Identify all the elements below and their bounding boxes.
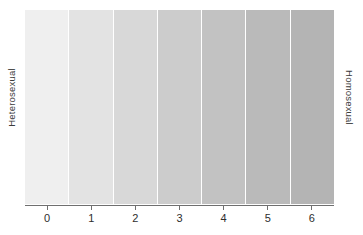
left-axis-annotation-text: Heterosexual: [6, 68, 17, 126]
scale-band-strip: [25, 10, 334, 204]
x-axis-tick-labels: 0123456: [25, 210, 334, 226]
right-axis-annotation-text: Homosexual: [344, 70, 355, 125]
scale-band: [69, 10, 113, 204]
x-axis-tick-label: 1: [69, 210, 113, 226]
scale-band: [202, 10, 246, 204]
kinsey-scale-figure: Heterosexual Homosexual 0123456: [0, 0, 363, 235]
scale-band: [246, 10, 290, 204]
x-axis-tick-label: 6: [290, 210, 334, 226]
scale-band: [25, 10, 69, 204]
x-axis-tick-label: 5: [246, 210, 290, 226]
x-axis-tick-label: 0: [25, 210, 69, 226]
right-axis-annotation: Homosexual: [336, 0, 362, 195]
scale-band: [114, 10, 158, 204]
x-axis-tick-label: 2: [113, 210, 157, 226]
scale-band: [291, 10, 334, 204]
left-axis-annotation: Heterosexual: [0, 0, 22, 195]
x-axis-tick-label: 3: [157, 210, 201, 226]
scale-band: [158, 10, 202, 204]
x-axis-tick-label: 4: [202, 210, 246, 226]
